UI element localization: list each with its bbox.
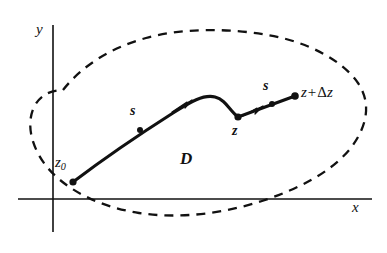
label-z: z	[232, 124, 237, 138]
contour-diagram-canvas	[0, 0, 387, 253]
point-marker-z	[234, 113, 241, 120]
label-z0: z0	[55, 155, 66, 172]
label-s-left: s	[130, 104, 135, 118]
point-marker-s-right	[269, 101, 275, 107]
contour-path-z0-to-z	[73, 96, 238, 182]
label-domain-d: D	[180, 150, 192, 167]
contour-direction-arrow-icon	[172, 100, 192, 112]
label-zdz-operator: +	[307, 84, 317, 100]
y-axis-label: y	[36, 22, 43, 37]
domain-boundary-path	[30, 30, 366, 215]
point-marker-s-left	[137, 127, 143, 133]
figure-container: y x z0 s s z z+Δz D	[0, 0, 387, 253]
delta-symbol: Δ	[317, 84, 327, 100]
x-axis-label: x	[352, 200, 359, 215]
label-zdz-variable: z	[327, 84, 333, 100]
point-marker-z0	[69, 178, 76, 185]
label-zdz-base: z	[301, 84, 307, 100]
label-z0-subscript: 0	[61, 161, 66, 172]
label-s-right: s	[263, 79, 268, 93]
increment-direction-arrow-icon	[243, 106, 263, 116]
label-z-plus-delta-z: z+Δz	[301, 85, 333, 100]
point-marker-z-plus-delta-z	[291, 92, 299, 100]
